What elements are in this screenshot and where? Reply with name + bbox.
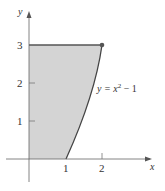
y-axis-arrow-icon (27, 11, 32, 18)
x-tick-label-1: 1 (63, 162, 69, 174)
y-tick-label-1: 1 (17, 115, 23, 127)
shaded-region (29, 45, 102, 159)
x-axis-label: x (149, 161, 155, 172)
y-axis-label: y (17, 6, 23, 17)
curve-label: y = x2 − 1 (96, 82, 137, 94)
y-tick-label-3: 3 (17, 39, 23, 51)
y-tick-label-2: 2 (17, 77, 23, 89)
x-tick-label-2: 2 (99, 162, 105, 174)
chart-canvas: 3 2 1 1 2 y x y = x2 − 1 (0, 0, 165, 191)
endpoint-dot (100, 43, 105, 48)
